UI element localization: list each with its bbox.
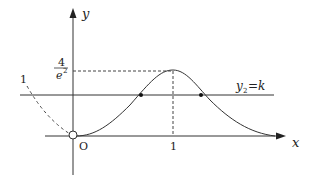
function-graph: y x O 1 1 4 e 2 y 2 =k [0,0,313,184]
y-axis-arrow-icon [70,8,77,18]
main-curve [76,70,275,136]
y-axis-label: y [81,6,90,21]
left-label-one: 1 [20,73,27,86]
intersection-point-right [199,93,203,97]
dashed-curve-left [27,86,70,134]
peak-value-denominator: e [56,69,63,82]
line-label-subscript: 2 [243,87,247,95]
intersection-point-left [139,93,143,97]
x-axis-label: x [292,135,300,150]
origin-open-circle [69,131,77,139]
peak-value-exponent: 2 [63,67,67,75]
line-label-rest: =k [248,79,265,93]
tick-label-x-one: 1 [170,140,177,153]
x-axis-arrow-icon [276,133,286,140]
origin-label: O [79,140,88,153]
line-label-y: y [235,79,243,93]
